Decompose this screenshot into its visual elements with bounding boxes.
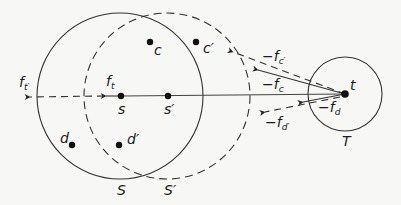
label-neg-f-c-prime: −fc′ <box>262 48 286 66</box>
point-d <box>69 142 75 148</box>
label-t: t <box>350 77 356 93</box>
label-circle-T: T <box>342 133 352 149</box>
label-neg-f-d: −fd <box>318 99 341 117</box>
vector-f-t-prime <box>30 96 104 97</box>
point-s-prime <box>165 93 171 99</box>
label-d-prime: d′ <box>127 131 140 147</box>
line-t-to-s <box>121 94 345 96</box>
label-neg-f-c: −fc <box>262 76 284 94</box>
label-c-prime: c′ <box>203 40 215 56</box>
label-c: c <box>154 42 162 58</box>
label-f-t-prime: ft′ <box>19 74 30 92</box>
point-c-prime <box>193 39 199 45</box>
point-s <box>118 93 124 99</box>
force-diagram: s s′ t c c′ d d′ S S′ T ft ft′ −fc′ −fc … <box>0 0 401 205</box>
point-d-prime <box>116 142 122 148</box>
label-d: d <box>60 130 69 146</box>
label-f-t: ft <box>106 73 115 91</box>
label-s-prime: s′ <box>164 101 175 117</box>
point-t <box>341 90 349 98</box>
label-neg-f-d-prime: −fd′ <box>265 114 289 132</box>
label-s: s <box>118 101 125 117</box>
label-circle-S: S <box>117 182 126 198</box>
label-circle-S-prime: S′ <box>164 182 177 198</box>
point-c <box>147 39 153 45</box>
